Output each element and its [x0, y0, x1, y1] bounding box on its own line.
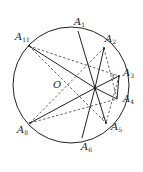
point-dot-a3 [118, 75, 120, 77]
point-dot-a5 [105, 122, 107, 124]
dashed-chord-a11-a3 [29, 46, 119, 76]
solid-chord-a8-p [30, 88, 95, 123]
solid-chord-a2-p [95, 48, 104, 88]
angle-mark-a5 [102, 117, 104, 118]
label-a1: A1 [73, 16, 85, 28]
point-dot-a2 [103, 47, 105, 49]
point-dot-a11 [28, 45, 30, 47]
angle-mark-a3 [113, 74, 114, 79]
label-a6: A6 [80, 141, 92, 153]
solid-chord-a1-p [78, 31, 95, 88]
point-dot-a8 [29, 122, 31, 124]
label-a8: A8 [16, 124, 28, 136]
solid-chord-p-a3 [95, 76, 119, 88]
solid-chord-p-a6 [82, 88, 95, 138]
label-a5: A5 [110, 121, 122, 133]
dashed-chords [29, 46, 119, 123]
dashed-chord-a8-a2 [30, 48, 104, 123]
circle-geometry-diagram: A1A2A3A4A5A6A8A11 O [0, 0, 143, 172]
label-a11: A11 [14, 31, 30, 43]
dashed-chord-a8-a4 [30, 99, 117, 123]
label-a3: A3 [122, 67, 134, 79]
point-dot-p [94, 87, 97, 90]
center-label-O: O [53, 79, 61, 90]
dashed-chord-a3-a5 [106, 76, 119, 123]
solid-chord-a3-a4 [117, 76, 119, 99]
label-a2: A2 [104, 33, 116, 45]
solid-chords [29, 31, 119, 138]
label-a4: A4 [122, 93, 134, 105]
point-labels: A1A2A3A4A5A6A8A11 [14, 16, 134, 153]
